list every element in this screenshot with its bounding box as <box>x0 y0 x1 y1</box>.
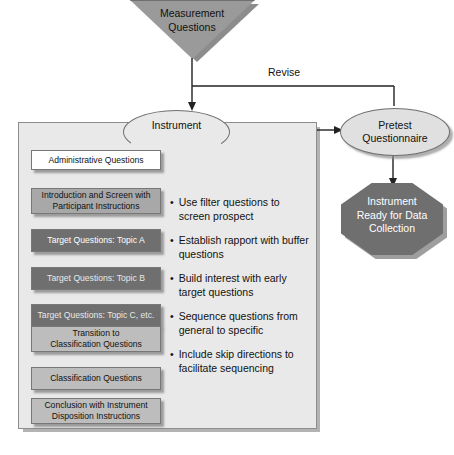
sequence-box-line: Classification Questions <box>50 339 142 350</box>
bullet-icon: • <box>170 272 174 299</box>
instrument-ready-line3: Collection <box>341 222 443 236</box>
guideline-item: •Include skip directions to facilitate s… <box>170 348 310 375</box>
pretest-questionnaire-label: Pretest Questionnaire <box>362 119 427 146</box>
design-guidelines-list: •Use filter questions to screen prospect… <box>170 196 310 386</box>
guideline-text: Include skip directions to facilitate se… <box>179 348 310 375</box>
bullet-icon: • <box>170 310 174 337</box>
sequence-box-label: Administrative Questions <box>48 155 143 166</box>
sequence-box: Introduction and Screen withParticipant … <box>31 188 161 214</box>
sequence-box-line: Target Questions: Topic C, etc. <box>38 310 155 321</box>
sequence-box-line: Administrative Questions <box>48 155 143 166</box>
instrument-ready-line1: Instrument <box>341 195 443 209</box>
guideline-text: Sequence questions from general to speci… <box>179 310 310 337</box>
sequence-box-line: Disposition Instructions <box>44 411 147 422</box>
guideline-item: •Sequence questions from general to spec… <box>170 310 310 337</box>
sequence-box: Classification Questions <box>31 367 161 390</box>
sequence-box-label: Introduction and Screen withParticipant … <box>42 190 151 212</box>
sequence-box-line: Target Questions: Topic B <box>47 273 145 284</box>
guideline-item: •Use filter questions to screen prospect <box>170 196 310 223</box>
guideline-item: •Establish rapport with buffer questions <box>170 234 310 261</box>
instrument-design-line1: Instrument <box>152 119 202 133</box>
bullet-icon: • <box>170 234 174 261</box>
sequence-box-line: Classification Questions <box>50 373 142 384</box>
sequence-box: Administrative Questions <box>31 150 161 170</box>
sequence-box-label: Target Questions: Topic B <box>47 273 145 284</box>
sequence-box-line: Introduction and Screen with <box>42 190 151 201</box>
pretest-line1: Pretest <box>362 119 427 133</box>
sequence-box-line: Transition to <box>50 328 142 339</box>
diagram-canvas: Measurement Questions Revise Instrument … <box>0 0 454 455</box>
sequence-box: Target Questions: Topic B <box>31 267 161 290</box>
guideline-text: Use filter questions to screen prospect <box>179 196 310 223</box>
sequence-box-line: Target Questions: Topic A <box>47 235 144 246</box>
sequence-box: Transition toClassification Questions <box>31 326 161 352</box>
revise-arrow-label: Revise <box>268 66 300 78</box>
instrument-ready-label: Instrument Ready for Data Collection <box>341 195 443 236</box>
pretest-line2: Questionnaire <box>362 132 427 146</box>
sequence-box-line: Participant Instructions <box>42 201 151 212</box>
instrument-ready-node: Instrument Ready for Data Collection <box>341 183 447 259</box>
sequence-box-label: Conclusion with InstrumentDisposition In… <box>44 400 147 422</box>
sequence-box: Target Questions: Topic C, etc. <box>31 304 161 327</box>
bullet-icon: • <box>170 196 174 223</box>
sequence-box-label: Target Questions: Topic A <box>47 235 144 246</box>
sequence-box-label: Classification Questions <box>50 373 142 384</box>
sequence-box-label: Target Questions: Topic C, etc. <box>38 310 155 321</box>
guideline-text: Establish rapport with buffer questions <box>179 234 310 261</box>
instrument-ready-line2: Ready for Data <box>341 209 443 223</box>
guideline-item: •Build interest with early target questi… <box>170 272 310 299</box>
guideline-text: Build interest with early target questio… <box>179 272 310 299</box>
bullet-icon: • <box>170 348 174 375</box>
sequence-box: Conclusion with InstrumentDisposition In… <box>31 398 161 424</box>
sequence-box-label: Transition toClassification Questions <box>50 328 142 350</box>
pretest-questionnaire-node: Pretest Questionnaire <box>340 108 450 156</box>
sequence-box: Target Questions: Topic A <box>31 229 161 252</box>
sequence-box-line: Conclusion with Instrument <box>44 400 147 411</box>
